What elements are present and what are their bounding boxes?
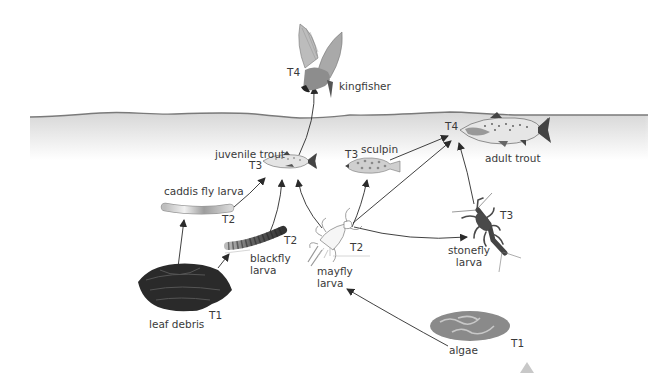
blackfly-larva-illustration xyxy=(228,230,283,246)
juvenile-trout-trophic-level: T3 xyxy=(249,159,262,171)
blackfly-larva-trophic-level: T2 xyxy=(284,234,297,246)
arrow-leaf-to-blackfly xyxy=(218,254,229,268)
kingfisher-label: kingfisher xyxy=(339,80,391,92)
leaf-debris-illustration xyxy=(138,264,232,312)
algae-illustration xyxy=(430,311,510,341)
blackfly-larva-label: blackfly larva xyxy=(250,252,291,276)
caddis-fly-larva-trophic-level: T2 xyxy=(222,213,235,225)
water xyxy=(0,110,671,165)
arrow-mayfly-to-juvenile xyxy=(298,180,322,228)
triangle-marker xyxy=(520,362,534,373)
arrow-mayfly-to-stonefly xyxy=(354,227,467,238)
stonefly-larva-trophic-level: T3 xyxy=(500,209,513,221)
adult-trout-trophic-level: T4 xyxy=(445,120,458,132)
algae-trophic-level: T1 xyxy=(511,337,524,349)
leaf-debris-trophic-level: T1 xyxy=(209,309,222,321)
food-web-diagram: T4 kingfisher T4 adult trout juvenile tr… xyxy=(0,0,671,376)
caddis-fly-larva-label: caddis fly larva xyxy=(164,185,244,197)
stonefly-larva-label: stonefly larva xyxy=(448,244,490,268)
mayfly-larva-illustration xyxy=(308,208,362,266)
kingfisher-trophic-level: T4 xyxy=(287,66,300,78)
mayfly-larva-trophic-level: T2 xyxy=(350,241,363,253)
arrow-mayfly-to-sculpin xyxy=(352,180,367,227)
sculpin-trophic-level: T3 xyxy=(345,148,358,160)
leaf-debris-label: leaf debris xyxy=(149,318,204,330)
kingfisher-illustration xyxy=(299,24,342,98)
caddis-fly-larva-illustration xyxy=(165,207,230,210)
mayfly-larva-label: mayfly larva xyxy=(317,265,353,289)
sculpin-label: sculpin xyxy=(361,143,398,155)
adult-trout-label: adult trout xyxy=(485,152,541,164)
arrow-algae-to-mayfly xyxy=(347,289,448,346)
diagram-canvas xyxy=(0,0,671,376)
algae-label: algae xyxy=(449,344,478,356)
